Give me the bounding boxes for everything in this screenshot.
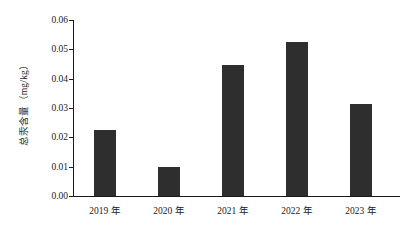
bar-group [73,20,137,196]
bar-group [329,20,393,196]
bar-group [201,20,265,196]
bar [94,130,116,196]
bar-group [265,20,329,196]
bar-chart-figure: 总汞含量（mg/kg） 0.000.010.020.030.040.050.06… [0,0,409,242]
x-axis-tick-label: 2019 年 [73,203,137,217]
x-axis-tick-label: 2022 年 [265,203,329,217]
y-axis-tick-label-group: 0.000.010.020.030.040.050.06 [30,20,68,196]
bar [222,65,244,196]
x-axis-tick-label-group: 2019 年2020 年2021 年2022 年2023 年 [73,203,393,223]
bar [350,104,372,196]
bar [158,167,180,196]
bar-group [137,20,201,196]
y-axis-tick-label: 0.01 [51,162,68,172]
bar-group-container [73,20,393,196]
y-axis-tick-label: 0.02 [51,132,68,142]
y-axis-tick-label: 0.00 [51,191,68,201]
y-axis-tick-label: 0.06 [51,15,68,25]
bar [286,42,308,196]
plot-area [73,20,393,196]
x-axis-spine [73,196,400,197]
x-axis-tick-label: 2023 年 [329,203,393,217]
y-axis-title-label: 总汞含量（mg/kg） [16,59,30,145]
y-axis-tick-mark [69,196,73,197]
x-axis-tick-label: 2021 年 [201,203,265,217]
y-axis-tick-label: 0.05 [51,44,68,54]
y-axis-tick-label: 0.03 [51,103,68,113]
y-axis-tick-label: 0.04 [51,74,68,84]
x-axis-tick-label: 2020 年 [137,203,201,217]
